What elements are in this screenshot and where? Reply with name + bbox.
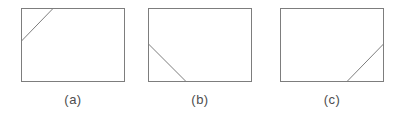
panel-a [21,8,125,82]
rect-with-bottom-right-cut-icon [280,8,384,82]
figure-canvas: (a) (b) (c) [0,0,407,118]
panel-label-a: (a) [21,91,125,109]
panel-c [280,8,384,82]
panel-label-b: (b) [148,91,252,109]
panel-b [148,8,252,82]
rect-with-bottom-left-cut-icon [148,8,252,82]
rect-with-top-left-cut-icon [21,8,125,82]
panel-label-c: (c) [280,91,384,109]
